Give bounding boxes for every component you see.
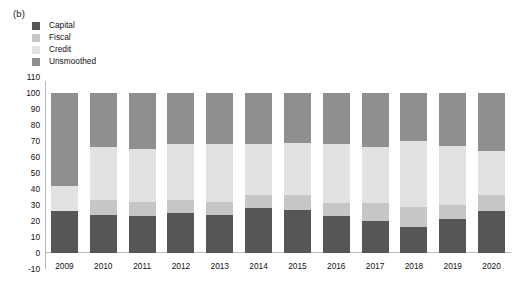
bar-segment-credit-2012[interactable] (167, 144, 194, 200)
bar-segment-credit-2015[interactable] (284, 143, 311, 196)
bar-segment-unsmoothed-2017[interactable] (362, 93, 389, 147)
bar-segment-unsmoothed-2019[interactable] (439, 93, 466, 146)
bar-segment-capital-2018[interactable] (400, 227, 427, 253)
bar-segment-fiscal-2020[interactable] (478, 195, 505, 211)
bar-segment-capital-2019[interactable] (439, 219, 466, 253)
legend-label: Credit (49, 45, 71, 54)
bar-group-2020[interactable]: 2020 (478, 93, 505, 253)
bar-segment-credit-2020[interactable] (478, 151, 505, 196)
x-axis-tick-label: 2012 (172, 262, 190, 271)
x-axis-tick-label: 2013 (211, 262, 229, 271)
bar-segment-fiscal-2011[interactable] (129, 202, 156, 216)
bar-segment-fiscal-2016[interactable] (323, 203, 350, 216)
bar-series-container: 2009201020112012201320142015201620172018… (45, 93, 511, 253)
bar-group-2009[interactable]: 2009 (51, 93, 78, 253)
legend-label: Unsmoothed (49, 57, 96, 66)
y-axis-tick-label: 110 (27, 73, 40, 81)
bar-segment-fiscal-2015[interactable] (284, 195, 311, 209)
legend-label: Fiscal (49, 33, 71, 42)
x-axis-tick-label: 2017 (366, 262, 384, 271)
bar-segment-capital-2016[interactable] (323, 216, 350, 253)
legend-swatch-icon-unsmoothed (32, 58, 40, 66)
bar-segment-capital-2017[interactable] (362, 221, 389, 253)
bar-group-2018[interactable]: 2018 (400, 93, 427, 253)
panel-label: (b) (13, 8, 25, 19)
bar-segment-unsmoothed-2012[interactable] (167, 93, 194, 144)
bar-segment-unsmoothed-2020[interactable] (478, 93, 505, 151)
legend-swatch-icon-fiscal (32, 34, 40, 42)
y-axis-tick-label: -10 (28, 265, 40, 273)
bar-segment-capital-2020[interactable] (478, 211, 505, 253)
legend-item-fiscal[interactable]: Fiscal (32, 32, 96, 43)
bar-segment-credit-2009[interactable] (51, 186, 78, 212)
bar-segment-fiscal-2010[interactable] (90, 200, 117, 214)
bar-segment-capital-2014[interactable] (245, 208, 272, 253)
bar-segment-capital-2010[interactable] (90, 215, 117, 253)
y-axis-tick-label: 20 (31, 217, 40, 225)
legend-label: Capital (49, 21, 75, 30)
y-axis-tick-label: 10 (31, 233, 40, 241)
y-axis-tick-label: 60 (31, 153, 40, 161)
x-axis-tick-label: 2009 (55, 262, 73, 271)
bar-segment-credit-2014[interactable] (245, 144, 272, 195)
x-axis-tick-label: 2020 (482, 262, 500, 271)
x-axis-tick-label: 2018 (405, 262, 423, 271)
y-axis-tick-label: 80 (31, 121, 40, 129)
bar-segment-capital-2011[interactable] (129, 216, 156, 253)
legend-item-credit[interactable]: Credit (32, 44, 96, 55)
bar-segment-unsmoothed-2015[interactable] (284, 93, 311, 143)
y-axis-tick-label: 100 (26, 89, 40, 97)
x-axis-tick-label: 2010 (94, 262, 112, 271)
bar-group-2016[interactable]: 2016 (323, 93, 350, 253)
bar-group-2011[interactable]: 2011 (129, 93, 156, 253)
x-axis-tick-label: 2019 (444, 262, 462, 271)
bar-group-2010[interactable]: 2010 (90, 93, 117, 253)
bar-segment-unsmoothed-2018[interactable] (400, 93, 427, 141)
bar-segment-fiscal-2014[interactable] (245, 195, 272, 208)
bar-segment-credit-2019[interactable] (439, 146, 466, 205)
figure-panel-b: (b) CapitalFiscalCreditUnsmoothed 110100… (0, 0, 521, 300)
bar-segment-fiscal-2012[interactable] (167, 200, 194, 213)
bar-group-2012[interactable]: 2012 (167, 93, 194, 253)
bar-segment-capital-2015[interactable] (284, 210, 311, 253)
legend-swatch-icon-capital (32, 22, 40, 30)
bar-segment-credit-2013[interactable] (206, 144, 233, 202)
chart-legend: CapitalFiscalCreditUnsmoothed (32, 20, 96, 67)
bar-segment-capital-2013[interactable] (206, 215, 233, 253)
bar-group-2013[interactable]: 2013 (206, 93, 233, 253)
bar-segment-credit-2017[interactable] (362, 147, 389, 203)
bar-segment-credit-2016[interactable] (323, 144, 350, 203)
bar-segment-fiscal-2018[interactable] (400, 207, 427, 228)
bar-segment-fiscal-2017[interactable] (362, 203, 389, 221)
bar-group-2019[interactable]: 2019 (439, 93, 466, 253)
bar-segment-capital-2012[interactable] (167, 213, 194, 253)
x-axis-tick-label: 2016 (327, 262, 345, 271)
bar-segment-unsmoothed-2009[interactable] (51, 93, 78, 186)
y-axis-tick-label: 40 (31, 185, 40, 193)
bar-segment-fiscal-2019[interactable] (439, 205, 466, 219)
x-axis-tick-label: 2014 (249, 262, 267, 271)
y-axis-tick-label: 70 (31, 137, 40, 145)
x-axis-tick-label: 2011 (133, 262, 151, 271)
bar-group-2015[interactable]: 2015 (284, 93, 311, 253)
bar-segment-capital-2009[interactable] (51, 211, 78, 253)
bar-segment-credit-2010[interactable] (90, 147, 117, 200)
y-axis-tick-label: 30 (31, 201, 40, 209)
bar-segment-fiscal-2013[interactable] (206, 202, 233, 215)
y-axis-tick-label: 0 (35, 249, 40, 257)
legend-swatch-icon-credit (32, 46, 40, 54)
y-axis-tick-label: 50 (31, 169, 40, 177)
bar-group-2014[interactable]: 2014 (245, 93, 272, 253)
legend-item-capital[interactable]: Capital (32, 20, 96, 31)
bar-segment-credit-2011[interactable] (129, 149, 156, 202)
bar-segment-unsmoothed-2013[interactable] (206, 93, 233, 144)
bar-segment-unsmoothed-2016[interactable] (323, 93, 350, 144)
y-axis-tick-label: 90 (31, 105, 40, 113)
bar-group-2017[interactable]: 2017 (362, 93, 389, 253)
bar-segment-unsmoothed-2010[interactable] (90, 93, 117, 147)
bar-segment-credit-2018[interactable] (400, 141, 427, 207)
bar-segment-unsmoothed-2011[interactable] (129, 93, 156, 149)
legend-item-unsmoothed[interactable]: Unsmoothed (32, 56, 96, 67)
plot-area: 1101009080706050403020100-10 20092010201… (45, 93, 511, 269)
bar-segment-unsmoothed-2014[interactable] (245, 93, 272, 144)
